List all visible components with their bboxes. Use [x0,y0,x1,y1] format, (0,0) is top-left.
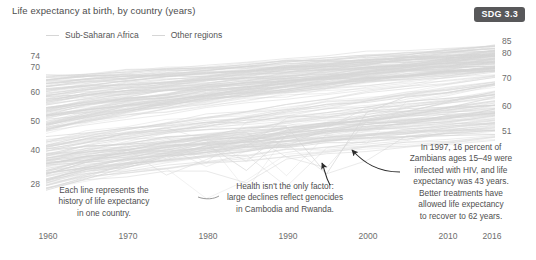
annotation-line: Each line represents the [38,185,170,196]
legend: Sub-Saharan Africa Other regions [46,30,222,40]
legend-item-sub-saharan-africa: Sub-Saharan Africa [46,30,139,40]
y-axis-right-tick: 85 [502,37,511,46]
annotation-line: Better treatments have [393,188,529,199]
legend-item-other-regions: Other regions [152,30,223,40]
x-axis-tick: 2010 [439,231,458,241]
annotation-each-line: Each line represents the history of life… [38,185,170,219]
legend-item-label: Sub-Saharan Africa [65,30,139,40]
annotation-line: history of life expectancy [38,196,170,207]
legend-item-label: Other regions [171,30,223,40]
y-axis-left-tick: 50 [31,117,40,126]
x-axis-tick: 1980 [199,231,218,241]
annotation-line: to recover to 62 years. [393,211,529,222]
annotation-line: large declines reflect genocides [214,192,356,203]
annotation-line: allowed life expectancy [393,199,529,210]
x-axis-tick: 1990 [279,231,298,241]
x-axis-tick: 2016 [483,231,502,241]
annotation-genocides: Health isn't the only factor: large decl… [214,181,356,215]
y-axis-right-tick: 80 [502,49,511,58]
annotation-line: In 1997, 16 percent of [393,142,529,153]
annotation-line: expectancy was 43 years. [393,176,529,187]
y-axis-left-tick: 60 [31,88,40,97]
legend-line-icon [46,35,59,36]
annotation-zambia-hiv: In 1997, 16 percent of Zambians ages 15–… [393,142,529,222]
y-axis-right-tick: 51 [502,127,511,136]
x-axis-tick: 1960 [39,231,58,241]
annotation-line: Zambians ages 15–49 were [393,153,529,164]
y-axis-left-tick: 70 [31,63,40,72]
x-axis-tick: 1970 [119,231,138,241]
y-axis-left-tick: 40 [31,146,40,155]
annotation-line: Health isn't the only factor: [214,181,356,192]
status-badge: SDG 3.3 [474,7,525,22]
y-axis-left-tick: 74 [31,52,40,61]
annotation-line: infected with HIV, and life [393,165,529,176]
x-axis: 1960 1970 1980 1990 2000 2010 2016 [46,231,495,243]
page-title: Life expectancy at birth, by country (ye… [12,5,195,16]
x-axis-tick: 2000 [359,231,378,241]
y-axis-right-tick: 60 [502,102,511,111]
y-axis-right-tick: 70 [502,74,511,83]
annotation-line: in Cambodia and Rwanda. [214,204,356,215]
legend-line-icon [152,35,165,36]
annotation-line: in one country. [38,208,170,219]
chart-root: Life expectancy at birth, by country (ye… [0,0,536,260]
